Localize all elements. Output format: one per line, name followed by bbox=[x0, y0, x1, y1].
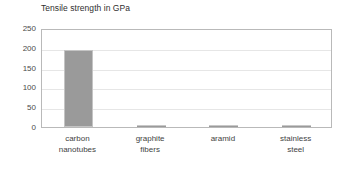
bar bbox=[209, 125, 238, 128]
y-tick-label: 100 bbox=[0, 84, 36, 92]
y-tick-label: 0 bbox=[0, 124, 36, 132]
bar bbox=[282, 125, 311, 128]
chart-title: Tensile strength in GPa bbox=[41, 3, 130, 14]
y-tick-label: 200 bbox=[0, 45, 36, 53]
plot-area bbox=[41, 29, 332, 128]
y-tick-label: 150 bbox=[0, 65, 36, 73]
x-tick-label: stainless steel bbox=[264, 133, 328, 155]
x-axis: carbon nanotubesgraphite fibersaramidsta… bbox=[41, 133, 332, 169]
y-tick-label: 250 bbox=[0, 25, 36, 33]
bar bbox=[64, 50, 93, 127]
y-tick-label: 50 bbox=[0, 104, 36, 112]
x-tick-label: carbon nanotubes bbox=[45, 133, 109, 155]
y-axis: 050100150200250 bbox=[0, 29, 36, 128]
tensile-strength-bar-chart: Tensile strength in GPa 050100150200250 … bbox=[0, 0, 349, 171]
bars-layer bbox=[42, 30, 331, 127]
x-tick-label: aramid bbox=[191, 133, 255, 144]
x-tick-label: graphite fibers bbox=[118, 133, 182, 155]
bar bbox=[137, 125, 166, 128]
